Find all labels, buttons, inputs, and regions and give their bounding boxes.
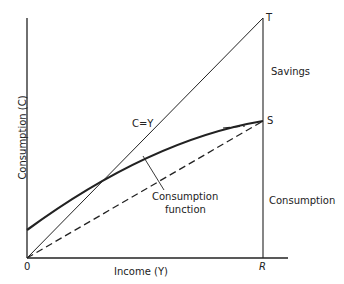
line-c-equals-y-label: C=Y [132, 119, 153, 129]
x-axis-label: Income (Y) [114, 267, 168, 277]
curve-label-line1: Consumption [152, 192, 218, 202]
line-c-equals-y [27, 18, 263, 258]
y-axis-label: Consumption (C) [17, 88, 28, 188]
curve-label-line2: function [165, 205, 206, 215]
savings-region-label: Savings [271, 67, 310, 77]
origin-label: 0 [24, 262, 30, 272]
dashed-ray-OS [27, 121, 263, 258]
point-S-label: S [267, 116, 273, 126]
point-R-label: R [259, 262, 266, 272]
point-T-label: T [266, 13, 272, 23]
diagram-canvas [0, 0, 344, 284]
consumption-region-label: Consumption [269, 196, 335, 206]
